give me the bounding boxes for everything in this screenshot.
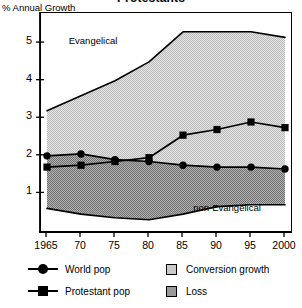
x-tick-label: 2000 — [267, 239, 301, 251]
legend-item-world-pop: World pop — [28, 260, 110, 278]
y-tick-label: 2 — [16, 147, 32, 159]
legend-label: Loss — [186, 286, 207, 297]
line-square-marker-icon — [28, 285, 58, 297]
x-tick-label: 80 — [131, 239, 165, 251]
stacked-bands — [47, 32, 285, 220]
x-tick-label: 85 — [165, 239, 199, 251]
legend-label: World pop — [65, 264, 110, 275]
dark-gray-swatch-icon — [166, 286, 177, 297]
chart-root: Protestants % Annual Growth Evangelica — [0, 0, 302, 308]
x-tick-label: 90 — [199, 239, 233, 251]
legend-item-conversion-growth: Conversion growth — [166, 260, 269, 278]
x-tick-label: 70 — [63, 239, 97, 251]
chart-legend: World pop Protestant pop Conversion grow… — [28, 258, 290, 304]
x-tick-label: 75 — [97, 239, 131, 251]
legend-label: Protestant pop — [65, 286, 130, 297]
y-tick-label: 1 — [16, 184, 32, 196]
y-tick-label: 5 — [16, 34, 32, 46]
legend-item-loss: Loss — [166, 282, 207, 300]
line-circle-marker-icon — [28, 263, 58, 275]
area-label-evangelical: Evangelical — [69, 35, 118, 46]
legend-label: Conversion growth — [186, 264, 269, 275]
y-tick-label: 3 — [16, 109, 32, 121]
y-tick-label: 4 — [16, 72, 32, 84]
area-label-non-evangelical: non-Evangelical — [193, 202, 261, 213]
plot-area: Evangelical non-Evangelical — [40, 12, 292, 232]
legend-item-protestant-pop: Protestant pop — [28, 282, 130, 300]
light-gray-swatch-icon — [166, 264, 177, 275]
x-tick-label: 1965 — [29, 239, 63, 251]
x-tick-label: 95 — [233, 239, 267, 251]
